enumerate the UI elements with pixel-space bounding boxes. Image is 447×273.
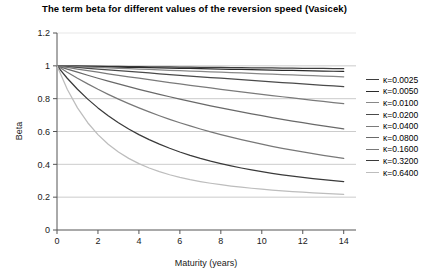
legend-item[interactable]: κ=0.0400 bbox=[366, 120, 446, 132]
x-tick-label: 8 bbox=[218, 236, 223, 246]
legend-item-label: κ=0.0100 bbox=[383, 98, 418, 108]
legend-item-label: κ=0.1600 bbox=[383, 144, 418, 154]
y-tick-label: 1.2 bbox=[37, 28, 50, 38]
x-tick-label: 14 bbox=[339, 236, 349, 246]
y-axis-ticks-group: 00.20.40.60.811.2 bbox=[37, 28, 57, 235]
legend-line-swatch bbox=[366, 126, 379, 127]
legend-item[interactable]: κ=0.0050 bbox=[366, 86, 446, 98]
y-tick-label: 1 bbox=[45, 61, 50, 71]
legend-line-swatch bbox=[366, 79, 379, 80]
x-axis-ticks-group: 02468101214 bbox=[54, 230, 348, 246]
legend-item[interactable]: κ=0.3200 bbox=[366, 155, 446, 167]
legend-line-swatch bbox=[366, 160, 379, 161]
legend-item[interactable]: κ=0.0200 bbox=[366, 109, 446, 121]
legend-item[interactable]: κ=0.6400 bbox=[366, 167, 446, 179]
y-axis-title: Beta bbox=[14, 122, 24, 141]
data-curve bbox=[57, 66, 344, 159]
legend-item[interactable]: κ=0.0800 bbox=[366, 132, 446, 144]
data-curve bbox=[57, 66, 344, 194]
legend-item-label: κ=0.0025 bbox=[383, 75, 418, 85]
legend-item-label: κ=0.3200 bbox=[383, 156, 418, 166]
x-tick-label: 2 bbox=[95, 236, 100, 246]
legend-item[interactable]: κ=0.0025 bbox=[366, 74, 446, 86]
legend-line-swatch bbox=[366, 91, 379, 92]
y-tick-label: 0.4 bbox=[37, 160, 50, 170]
gridlines-group bbox=[57, 33, 356, 197]
x-tick-label: 12 bbox=[298, 236, 308, 246]
chart-legend: κ=0.0025κ=0.0050κ=0.0100κ=0.0200κ=0.0400… bbox=[366, 74, 446, 178]
legend-line-swatch bbox=[366, 172, 379, 173]
x-axis-title: Maturity (years) bbox=[175, 258, 238, 268]
legend-line-swatch bbox=[366, 149, 379, 150]
legend-line-swatch bbox=[366, 114, 379, 115]
x-tick-label: 10 bbox=[257, 236, 267, 246]
legend-item[interactable]: κ=0.0100 bbox=[366, 97, 446, 109]
legend-item-label: κ=0.0200 bbox=[383, 110, 418, 120]
legend-line-swatch bbox=[366, 137, 379, 138]
legend-item[interactable]: κ=0.1600 bbox=[366, 144, 446, 156]
data-curves-group bbox=[57, 66, 344, 194]
legend-item-label: κ=0.6400 bbox=[383, 168, 418, 178]
chart-screenshot: The term beta for different values of th… bbox=[0, 0, 447, 273]
y-tick-label: 0.6 bbox=[37, 127, 50, 137]
y-tick-label: 0.8 bbox=[37, 94, 50, 104]
x-tick-label: 4 bbox=[136, 236, 141, 246]
legend-line-swatch bbox=[366, 102, 379, 103]
legend-item-label: κ=0.0800 bbox=[383, 133, 418, 143]
y-tick-label: 0 bbox=[45, 225, 50, 235]
legend-item-label: κ=0.0400 bbox=[383, 121, 418, 131]
y-tick-label: 0.2 bbox=[37, 192, 50, 202]
legend-item-label: κ=0.0050 bbox=[383, 86, 418, 96]
x-tick-label: 0 bbox=[54, 236, 59, 246]
x-tick-label: 6 bbox=[177, 236, 182, 246]
